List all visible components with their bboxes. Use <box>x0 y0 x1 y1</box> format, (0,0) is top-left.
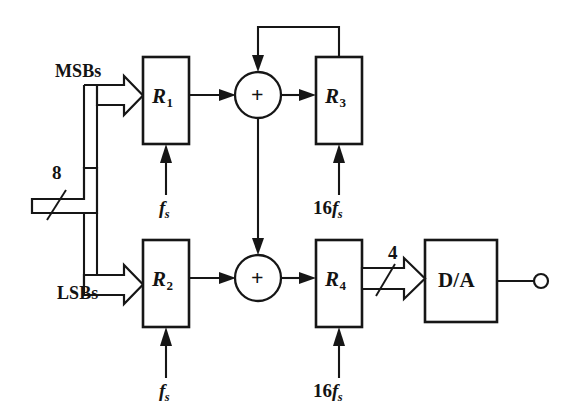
wire-r2-to-sum-bottom <box>189 272 236 284</box>
wire-sum-top-to-r3 <box>281 89 316 101</box>
block-label-R1: R1 <box>152 86 173 109</box>
output-terminal <box>534 274 548 288</box>
dac-bus-arrow-4 <box>362 258 425 299</box>
wire-r1-to-sum-top <box>189 89 236 101</box>
wire-da-to-output <box>497 274 548 288</box>
sum-symbol-top: + <box>251 84 264 106</box>
clock-label-r3: 16fs <box>313 198 343 220</box>
msb-bus-arrow <box>84 76 143 115</box>
clock-arrow-r2 <box>160 327 172 378</box>
wire-sum-top-to-sum-bottom <box>252 118 264 255</box>
clock-label-r2: fs <box>159 381 170 403</box>
clock-label-r1: fs <box>159 198 170 220</box>
clock-arrow-r3 <box>333 144 345 195</box>
msb-label: MSBs <box>55 62 101 80</box>
block-label-R4: R4 <box>325 269 346 292</box>
clock-arrow-r1 <box>160 144 172 195</box>
clock-arrow-r4 <box>333 327 345 378</box>
block-label-R3: R3 <box>325 86 346 109</box>
dac-bus-width-label: 4 <box>388 243 398 262</box>
clock-label-r4: 16fs <box>313 381 343 403</box>
block-label-DA: D/A <box>438 270 475 291</box>
lsb-label: LSBs <box>57 284 98 302</box>
block-diagram-figure: R1 R3 R2 R4 D/A + + MSBs LSBs 8 4 fs 16f… <box>0 0 576 412</box>
block-label-R2: R2 <box>152 269 173 292</box>
sum-symbol-bottom: + <box>251 267 264 289</box>
wire-sum-bottom-to-r4 <box>281 272 316 284</box>
input-bus-width-label: 8 <box>52 163 62 182</box>
input-bus-8 <box>32 168 97 220</box>
